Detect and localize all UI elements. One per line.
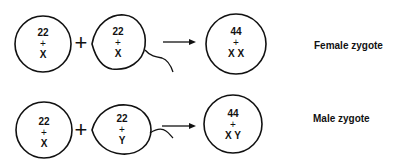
sperm-tail-2 [150,129,173,138]
egg-2-sex: X [38,138,49,149]
sperm-2-sex: Y [116,135,127,146]
sperm-1-sex: X [112,48,123,59]
sperm-1-autosomes: 22 [112,26,123,37]
join-plus-1: + [75,32,88,54]
zygote-2-sex: X Y [225,130,241,141]
zygote-1-sex: X X [228,48,244,59]
sperm-2-plus: + [116,124,127,135]
male-zygote-label: Male zygote [313,113,370,124]
join-plus-2: + [75,119,88,141]
zygote-2-plus: + [225,119,241,130]
zygote-1-autosomes: 44 [228,26,244,37]
egg-1-autosomes: 22 [37,27,48,38]
arrow-1-head [189,39,196,45]
sperm-1-chromosomes: 22 + X [112,26,123,59]
sperm-1-plus: + [112,37,123,48]
egg-2-chromosomes: 22 + X [38,116,49,149]
egg-1-chromosomes: 22 + X [37,27,48,60]
zygote-1-chromosomes: 44 + X X [228,26,244,59]
sperm-2-chromosomes: 22 + Y [116,113,127,146]
sperm-2-autosomes: 22 [116,113,127,124]
egg-1-plus: + [37,38,48,49]
egg-2-plus: + [38,127,49,138]
egg-1-sex: X [37,49,48,60]
sperm-tail-1 [145,50,173,72]
zygote-1-plus: + [228,37,244,48]
female-zygote-label: Female zygote [314,40,383,51]
diagram-shapes [0,0,399,167]
arrow-2-head [189,123,196,129]
egg-2-autosomes: 22 [38,116,49,127]
zygote-2-chromosomes: 44 + X Y [225,108,241,141]
zygote-2-autosomes: 44 [225,108,241,119]
